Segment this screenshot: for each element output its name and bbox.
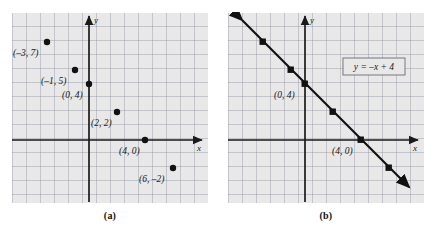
point-label: (–3, 7): [13, 48, 38, 59]
data-point: [288, 67, 294, 73]
data-point: [302, 81, 308, 87]
grid-background: [12, 13, 208, 203]
panel-b-svg: x y (0, 4) (4, 0) y = –x + 4: [228, 12, 424, 204]
data-point: [358, 137, 364, 143]
data-point: [386, 165, 392, 171]
point-label: (6, –2): [139, 174, 164, 185]
data-point: [86, 81, 92, 87]
panel-a-caption: (a): [12, 210, 208, 221]
data-point: [330, 109, 336, 115]
y-axis-label: y: [93, 15, 98, 25]
figure-two-panel-graph: x y (–3, 7) (–1, 5) (0, 4) (2, 2) (4, 0)…: [0, 0, 435, 235]
point-label: (–1, 5): [41, 76, 66, 87]
point-label: (0, 4): [62, 90, 83, 101]
data-point: [44, 39, 50, 45]
x-axis-label: x: [412, 143, 417, 153]
equation-text: y = –x + 4: [353, 62, 395, 72]
data-point: [170, 165, 176, 171]
data-point: [72, 67, 78, 73]
panel-b-caption: (b): [228, 210, 424, 221]
data-point: [260, 39, 266, 45]
panel-b-line-graph: x y (0, 4) (4, 0) y = –x + 4: [228, 12, 424, 204]
x-axis-label: x: [196, 143, 201, 153]
data-point: [114, 109, 120, 115]
point-label: (2, 2): [91, 118, 112, 129]
panel-a-scatter-plot: x y (–3, 7) (–1, 5) (0, 4) (2, 2) (4, 0)…: [12, 12, 208, 204]
grid-background: [228, 13, 424, 203]
panel-a-svg: x y (–3, 7) (–1, 5) (0, 4) (2, 2) (4, 0)…: [12, 12, 208, 204]
point-label: (0, 4): [274, 90, 295, 101]
point-label: (4, 0): [119, 146, 140, 157]
y-axis-label: y: [309, 15, 314, 25]
point-label: (4, 0): [332, 146, 353, 157]
data-point: [142, 137, 148, 143]
equation-annotation: y = –x + 4: [343, 58, 405, 75]
